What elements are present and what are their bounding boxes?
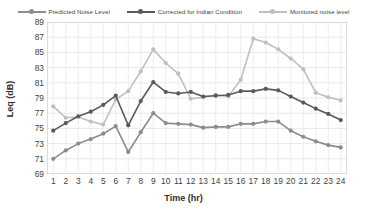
legend-label-corrected-for-indian-condition: Corrected for Indian Condition <box>158 8 242 15</box>
plot-area <box>47 22 347 174</box>
y-tick-label: 89 <box>22 17 44 27</box>
legend-label-predicted-noise-level: Predicted Noise Level <box>49 8 110 15</box>
y-tick-label: 71 <box>22 154 44 164</box>
y-tick-label: 73 <box>22 139 44 149</box>
legend-item-monitored-noise-level[interactable]: Monitored noise level <box>259 7 350 16</box>
legend-item-predicted-noise-level[interactable]: Predicted Noise Level <box>18 7 110 16</box>
noise-level-line-chart: Predicted Noise Level Corrected for Indi… <box>0 0 367 216</box>
x-tick-label: 24 <box>332 176 350 186</box>
legend-marker-monitored-noise-level <box>259 7 287 16</box>
chart-legend: Predicted Noise Level Corrected for Indi… <box>0 7 367 16</box>
legend-marker-corrected-for-indian-condition <box>127 7 155 16</box>
x-axis-tick-labels: 123456789101112131415161718192021222324 <box>47 176 347 190</box>
y-axis-title: Leq (dB) <box>2 0 18 216</box>
legend-item-corrected-for-indian-condition[interactable]: Corrected for Indian Condition <box>127 7 242 16</box>
y-tick-label: 83 <box>22 63 44 73</box>
y-tick-label: 69 <box>22 169 44 179</box>
y-tick-label: 77 <box>22 108 44 118</box>
y-tick-label: 87 <box>22 32 44 42</box>
y-tick-label: 79 <box>22 93 44 103</box>
x-axis-title: Time (hr) <box>0 193 367 203</box>
legend-marker-predicted-noise-level <box>18 7 46 16</box>
y-axis-title-text: Leq (dB) <box>5 81 15 118</box>
y-tick-label: 75 <box>22 123 44 133</box>
y-tick-label: 85 <box>22 47 44 57</box>
y-axis-tick-labels: 6971737577798183858789 <box>18 22 44 174</box>
plot-svg <box>47 22 347 174</box>
y-tick-label: 81 <box>22 78 44 88</box>
x-axis-title-text: Time (hr) <box>164 193 202 203</box>
legend-label-monitored-noise-level: Monitored noise level <box>290 8 350 15</box>
